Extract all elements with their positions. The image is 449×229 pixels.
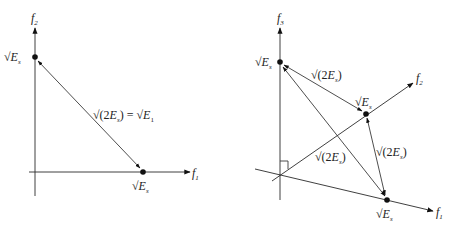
edge-f3-f2-label: √(2Es): [311, 68, 342, 84]
point-f3-label: √Es: [255, 55, 272, 71]
edge-f2-f1-label: √(2Es): [376, 145, 407, 161]
f1-axis-label: f1: [436, 205, 443, 221]
point-f1-label: √Es: [376, 207, 393, 223]
point-on-f2: [363, 111, 369, 117]
f2-axis-label: f2: [31, 11, 38, 27]
signal-space-diagram: f2 f1 √Es √Es √(2Es) = √E1 f3 f2 f1: [0, 0, 449, 229]
edge-f3-f1-label: √(2Es): [315, 150, 346, 166]
f2-axis: [272, 83, 413, 181]
distance-label: √(2Es) = √E1: [93, 108, 154, 124]
point-f2-label: √Es: [355, 95, 372, 111]
point-on-f3: [277, 59, 283, 65]
right-angle-marker: [280, 161, 288, 169]
left-panel: f2 f1 √Es √Es √(2Es) = √E1: [4, 11, 199, 196]
f1-axis-label: f1: [192, 166, 199, 182]
point-f2-label: √Es: [4, 50, 21, 66]
point-on-f1: [384, 197, 390, 203]
f1-axis: [255, 169, 433, 211]
f3-axis-label: f3: [277, 11, 284, 27]
point-f1-label: √Es: [132, 179, 149, 195]
f2-axis-label: f2: [416, 71, 423, 87]
right-panel: f3 f2 f1 √Es √Es √Es √(2Es) √(2Es) √(2Es…: [255, 11, 443, 223]
point-on-f2: [32, 54, 38, 60]
point-on-f1: [140, 169, 146, 175]
